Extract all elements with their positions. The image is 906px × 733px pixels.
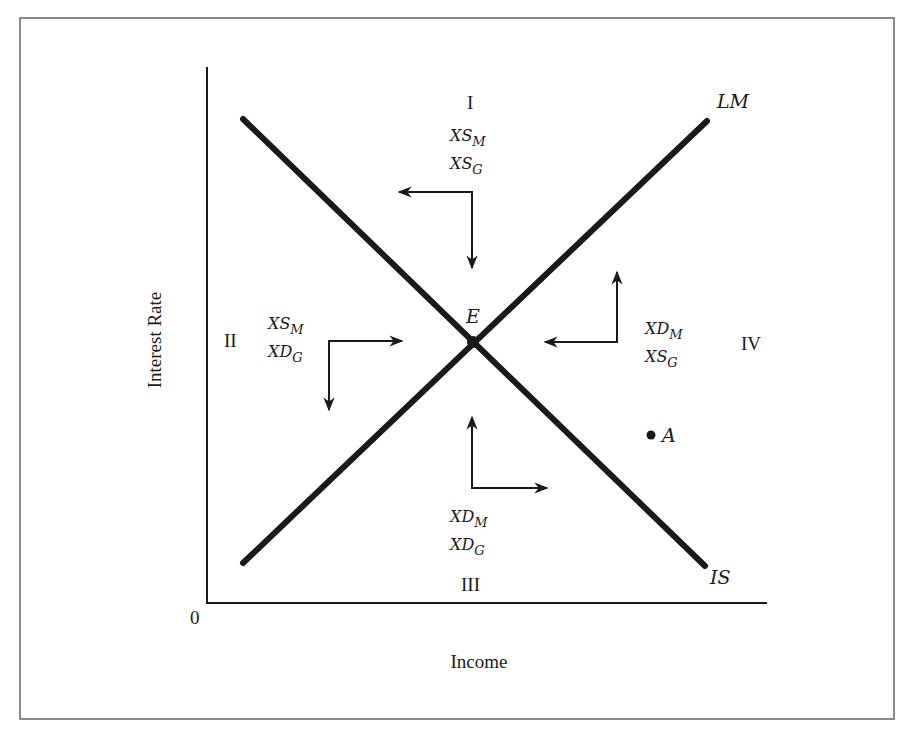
subscript: G — [472, 162, 482, 177]
subscript: G — [292, 350, 302, 365]
money-market-condition: XD — [645, 319, 669, 338]
subscript: G — [474, 543, 484, 558]
x-axis-label: Income — [451, 651, 508, 673]
region-iii-arrows — [471, 417, 547, 489]
region-ii-arrows — [329, 340, 402, 410]
region-iv-conditions: XDM XSG — [645, 319, 683, 373]
is-curve-label: IS — [710, 568, 731, 587]
money-market-condition: XD — [450, 507, 474, 526]
goods-market-condition: XS — [450, 154, 472, 173]
region-ii-conditions: XSM XDG — [268, 314, 304, 368]
region-iii-conditions: XDM XDG — [450, 507, 488, 561]
goods-market-condition: XS — [645, 347, 667, 366]
region-i-conditions: XSM XSG — [450, 126, 486, 180]
subscript: G — [667, 355, 677, 370]
region-i-numeral: I — [467, 93, 473, 112]
lm-curve-label: LM — [717, 92, 749, 111]
goods-market-condition: XD — [450, 535, 474, 554]
subscript: M — [474, 515, 487, 530]
origin-label: 0 — [190, 608, 200, 627]
is-lm-diagram — [0, 0, 906, 733]
money-market-condition: XS — [268, 314, 290, 333]
subscript: M — [290, 322, 303, 337]
goods-market-condition: XD — [268, 342, 292, 361]
region-ii-numeral: II — [224, 331, 237, 350]
region-i-arrows — [399, 191, 472, 268]
point-a-dot — [647, 431, 656, 440]
y-axis-label: Interest Rate — [144, 292, 166, 389]
equilibrium-point — [467, 336, 479, 348]
region-iv-arrows — [545, 272, 617, 343]
money-market-condition: XS — [450, 126, 472, 145]
region-iii-numeral: III — [461, 575, 480, 594]
equilibrium-label: E — [466, 307, 480, 326]
point-a-label: A — [662, 426, 676, 445]
region-iv-numeral: IV — [741, 334, 761, 353]
subscript: M — [472, 134, 485, 149]
subscript: M — [669, 327, 682, 342]
